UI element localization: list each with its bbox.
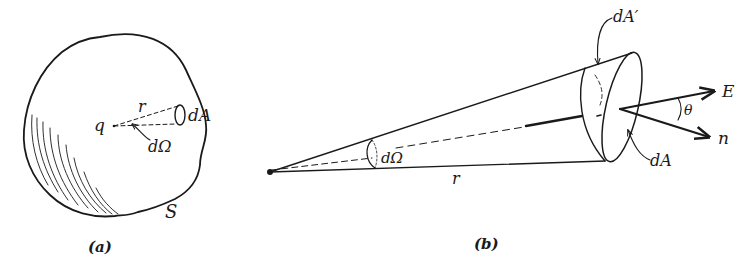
surface-hatching xyxy=(32,115,118,214)
charge-label: q xyxy=(94,115,105,135)
cone-edge-lower xyxy=(270,161,605,172)
normal-label: n xyxy=(718,128,729,148)
figure-a: q dA r dΩ S (a) xyxy=(24,34,211,256)
axis-tick xyxy=(597,115,601,116)
cone-ray-lower xyxy=(114,124,176,126)
projected-area-pointer xyxy=(598,18,612,64)
tilted-area-ellipse xyxy=(594,49,650,165)
cone-axis-dashed xyxy=(396,127,524,148)
figure-b: dΩ dA′ dA E n θ r (b) xyxy=(267,7,735,253)
caption-b: (b) xyxy=(474,235,499,253)
caption-a: (a) xyxy=(88,238,112,256)
electric-field-vector xyxy=(620,91,714,109)
radius-label-b: r xyxy=(452,169,461,188)
cone-ray-upper xyxy=(114,106,178,126)
projected-area-back xyxy=(595,75,602,105)
area-element-label: dA xyxy=(188,105,211,125)
angle-arc xyxy=(678,98,681,120)
cone-inner-dashed xyxy=(272,158,372,170)
radius-label: r xyxy=(138,97,147,116)
solid-angle-arc xyxy=(367,140,375,168)
gauss-law-diagram: q dA r dΩ S (a) dΩ xyxy=(0,0,750,275)
solid-angle-label-b: dΩ xyxy=(381,149,403,167)
projected-area-label: dA′ xyxy=(613,7,639,26)
normal-vector xyxy=(620,109,709,137)
solid-angle-arc-back xyxy=(372,140,377,168)
cone-edge-upper xyxy=(270,53,632,172)
area-element-pointer xyxy=(628,130,650,160)
surface-label: S xyxy=(165,201,177,222)
solid-angle-label: dΩ xyxy=(148,137,172,156)
electric-field-label: E xyxy=(721,81,735,101)
cone-axis-solid xyxy=(526,116,582,126)
angle-label: θ xyxy=(684,102,693,118)
area-element-label-b: dA xyxy=(650,151,672,170)
area-element-ellipse xyxy=(175,105,185,125)
